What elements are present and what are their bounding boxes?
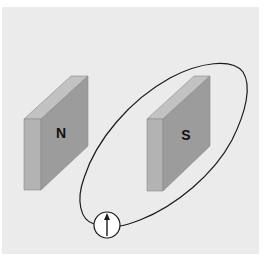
magnet-south: S bbox=[147, 76, 210, 191]
magnet-south-label: S bbox=[181, 127, 190, 143]
induction-diagram: N S bbox=[0, 0, 266, 262]
magnet-north-label: N bbox=[56, 125, 66, 141]
galvanometer bbox=[94, 212, 120, 238]
magnet-north: N bbox=[24, 76, 88, 190]
magnet-south-side-face bbox=[147, 119, 163, 191]
magnet-north-side-face bbox=[24, 119, 41, 190]
